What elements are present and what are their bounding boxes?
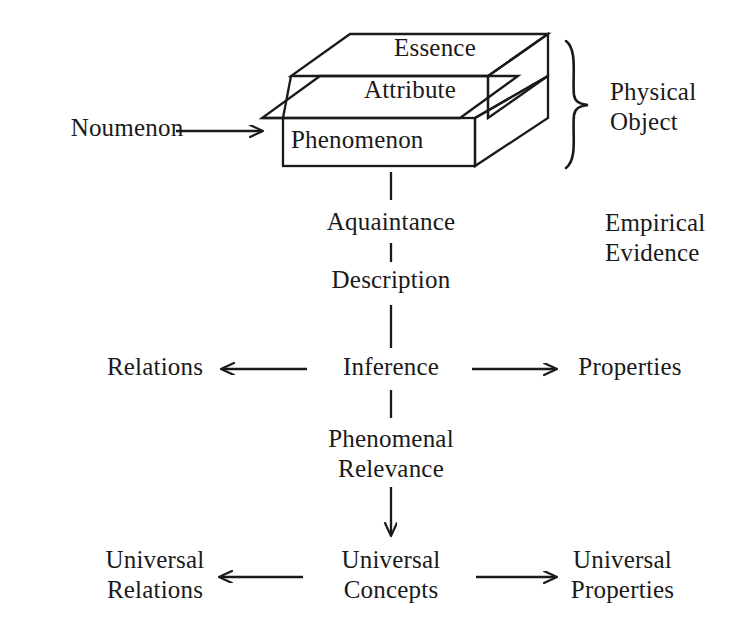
diagram-canvas: Essence Attribute Phenomenon Noumenon Ph… [0, 0, 732, 635]
essence-label: Essence [360, 33, 510, 63]
physical-object-brace [566, 41, 588, 168]
universal-relations-label: Universal Relations [80, 545, 230, 604]
properties-label: Properties [555, 352, 705, 382]
relations-label: Relations [85, 352, 225, 382]
phenomenon-label: Phenomenon [291, 125, 471, 155]
inference-label: Inference [321, 352, 461, 382]
noumenon-label: Noumenon [52, 113, 202, 143]
universal-properties-label: Universal Properties [540, 545, 705, 604]
aquaintance-label: Aquaintance [311, 207, 471, 237]
physical-object-label: Physical Object [610, 77, 730, 136]
empirical-evidence-label: Empirical Evidence [605, 208, 730, 267]
phenomenal-relevance-label: Phenomenal Relevance [316, 424, 466, 483]
universal-concepts-label: Universal Concepts [316, 545, 466, 604]
attribute-label: Attribute [330, 75, 490, 105]
description-label: Description [311, 265, 471, 295]
